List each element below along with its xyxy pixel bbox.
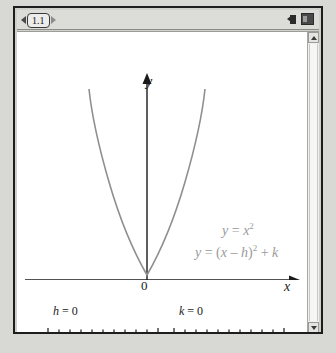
battery-icon bbox=[301, 13, 314, 25]
slider-h-track[interactable] bbox=[47, 325, 159, 332]
device-frame: 1.1 bbox=[13, 6, 323, 334]
equation-transformed-function: y = (x – h)2 + k bbox=[195, 243, 278, 261]
y-axis-label: y bbox=[146, 74, 152, 90]
eq2-var-h: h bbox=[241, 245, 248, 260]
scrollbar-track[interactable] bbox=[309, 44, 318, 321]
slider-k-track[interactable] bbox=[173, 325, 285, 332]
status-bar: 1.1 bbox=[17, 10, 319, 30]
x-axis-label: x bbox=[284, 279, 290, 295]
equation-parent-function: y = x2 bbox=[222, 221, 254, 239]
triangle-left-icon[interactable] bbox=[21, 16, 26, 24]
eq2-var-k: k bbox=[272, 245, 278, 260]
eq2-equals-open: = ( bbox=[201, 245, 221, 260]
page-indicator[interactable]: 1.1 bbox=[27, 13, 50, 28]
scroll-down-arrow-icon[interactable] bbox=[308, 322, 319, 332]
x-axis-arrowhead bbox=[289, 276, 300, 281]
slider-h-track-svg bbox=[47, 325, 159, 332]
graph-work-area[interactable]: y x 0 y = x2 y = (x – h)2 + k h = 0 bbox=[17, 31, 319, 332]
eq2-plus: + bbox=[257, 245, 272, 260]
scroll-up-arrow-icon[interactable] bbox=[308, 32, 319, 43]
page-navigator[interactable]: 1.1 bbox=[21, 12, 56, 28]
eq2-minus: – bbox=[227, 245, 241, 260]
triangle-right-icon[interactable] bbox=[51, 16, 56, 24]
eq1-exponent: 2 bbox=[249, 221, 254, 231]
slider-h-value-text: = 0 bbox=[59, 304, 78, 318]
graph-plot[interactable]: y x 0 y = x2 y = (x – h)2 + k bbox=[17, 32, 306, 280]
vertical-scrollbar[interactable] bbox=[307, 32, 319, 332]
slider-k-label: k = 0 bbox=[179, 304, 203, 319]
slider-h-label: h = 0 bbox=[53, 304, 78, 319]
calculator-screen: 1.1 bbox=[0, 0, 336, 353]
slider-k-value-text: = 0 bbox=[184, 304, 203, 318]
origin-label: 0 bbox=[141, 278, 148, 294]
slider-k[interactable]: k = 0 bbox=[169, 304, 289, 332]
eq1-equals: = bbox=[228, 223, 243, 238]
slider-k-track-svg bbox=[173, 325, 285, 332]
slider-h[interactable]: h = 0 bbox=[43, 304, 163, 332]
status-icon-group bbox=[287, 13, 314, 25]
speaker-icon bbox=[287, 14, 298, 25]
